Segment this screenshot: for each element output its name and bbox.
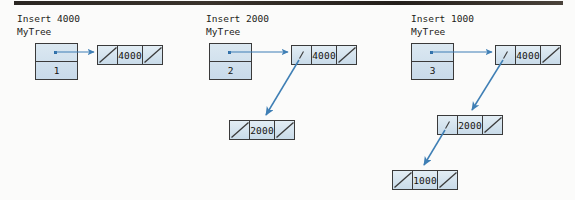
panel3-mytree-handle-box: 3 [411,43,454,80]
panel3-caption-line1: Insert 1000 [411,13,474,26]
panel3-node-4000: 4000 [495,45,561,65]
panel3-node-4000-left-pointer [496,46,515,64]
panel3-node-2000-key: 2000 [458,120,482,131]
panel3-handle-count-label: 3 [430,65,436,76]
panel3-handle-count-cell: 3 [412,62,453,80]
panel3-node-4000-key: 4000 [516,50,540,61]
panel3-node-1000-key-cell: 1000 [412,171,437,189]
panel3-node-4000-right-null [541,46,560,64]
panel3-handle-pointer-cell [412,44,453,62]
panel3-node-1000-key: 1000 [413,175,437,186]
panel3-node-1000-right-null [438,171,457,189]
panel3-caption-line2: MyTree [411,26,445,39]
panel-insert-1000: Insert 1000 MyTree 3 4000 [0,0,575,200]
panel3-node-2000-key-cell: 2000 [457,116,482,134]
panel3-node-1000-left-null [393,171,412,189]
panel3-node-2000-left-pointer [438,116,457,134]
panel3-node-2000-right-null [483,116,502,134]
panel3-root-pointer-dot [430,51,433,54]
panel3-node-4000-key-cell: 4000 [515,46,540,64]
panel3-node-2000: 2000 [437,115,503,135]
panel3-node-1000: 1000 [392,170,458,190]
tree-insertion-figure: Insert 4000 MyTree 1 4000 [0,0,575,200]
